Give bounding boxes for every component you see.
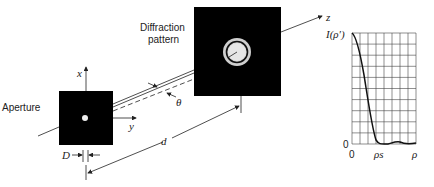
theta-label: θ: [176, 96, 182, 108]
diffraction-label-2: pattern: [148, 34, 179, 45]
theta-rays: [113, 73, 194, 111]
diameter-dimension: [72, 150, 100, 162]
plot-x-rhos: ρs: [373, 148, 384, 160]
plot-ylabel: I(ρ′): [325, 28, 345, 41]
intensity-plot: I(ρ′) 0 0 ρs ρ: [325, 28, 417, 160]
z-axis-label: z: [325, 11, 331, 23]
diffraction-label-1: Diffraction: [140, 22, 185, 33]
x-axis-label: x: [76, 67, 82, 79]
y-axis-label: y: [128, 120, 134, 132]
D-label: D: [61, 149, 70, 161]
aperture-label: Aperture: [2, 102, 41, 113]
d-label: d: [161, 135, 167, 147]
aperture-hole: [82, 115, 88, 121]
plot-grid: [352, 33, 416, 144]
plot-x-zero: 0: [349, 149, 355, 160]
diffraction-diagram: Aperture Diffraction pattern x y z θ d D: [0, 0, 434, 187]
plot-x-rho: ρ: [411, 148, 417, 160]
